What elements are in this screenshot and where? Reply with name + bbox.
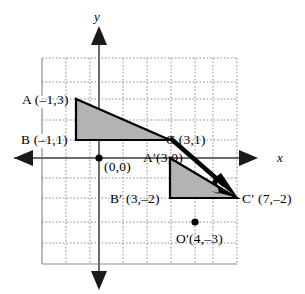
vertex-label-c-prime: C′ (7,–2) [242,192,292,206]
vertex-label-a-prime: A′(3,0) [143,151,183,165]
vertex-label-c: C (3,1) [166,133,206,147]
o-prime-dot [191,218,198,225]
vertex-label-b-prime: B′ (3,–2) [110,192,160,206]
y-axis-arrow-down [91,271,107,290]
diagram-canvas [0,0,305,294]
x-axis-label: x [277,151,283,164]
x-axis-arrow-left [14,150,33,166]
y-axis-arrow-up [91,26,107,45]
triangle-abc [76,99,170,140]
point-label-o-prime: O′(4,–3) [176,232,223,246]
vertex-label-a: A (–1,3) [22,93,69,107]
origin-dot [95,154,102,161]
y-axis-label: y [94,10,100,23]
origin-label: (0,0) [104,160,131,174]
coordinate-plane-figure: A (–1,3) B (–1,1) C (3,1) (0,0) A′(3,0) … [0,0,305,294]
x-axis-arrow-right [239,150,258,166]
x-axis [14,150,258,166]
vertex-label-b: B (–1,1) [21,133,68,147]
